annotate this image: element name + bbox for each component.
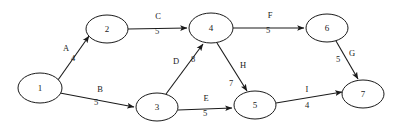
edge-weight-d: 8: [191, 54, 195, 64]
edge-label-g: G: [349, 48, 355, 58]
node-label-6: 6: [325, 23, 330, 33]
edge-label-d: D: [173, 56, 179, 66]
graph-edge-f: F5: [233, 10, 304, 35]
edge-weight-e: 5: [203, 108, 207, 118]
graph-edge-a: A4: [58, 36, 89, 80]
graph-edge-d: D8: [166, 44, 203, 94]
edge-weight-f: 5: [266, 25, 270, 35]
edge-label-b: B: [97, 84, 103, 94]
graph-node-2[interactable]: 2: [86, 15, 128, 43]
edge-line-d: [166, 44, 203, 94]
edge-weight-c: 5: [155, 26, 159, 36]
edge-weight-b: 5: [94, 97, 98, 107]
graph-edge-b: B5: [60, 84, 134, 107]
graph-edge-i: I4: [276, 84, 342, 110]
edge-weight-h: 7: [229, 78, 233, 88]
graph-node-6[interactable]: 6: [306, 14, 348, 42]
graph-node-4[interactable]: 4: [189, 13, 233, 43]
graph-diagram-canvas: A4B5C5D8E5F5G5H7I4 1234567: [0, 0, 399, 134]
node-label-4: 4: [209, 23, 214, 33]
edge-label-i: I: [306, 84, 309, 94]
edge-label-e: E: [203, 93, 208, 103]
edge-label-a: A: [63, 43, 70, 53]
nodes-layer: 1234567: [18, 13, 384, 121]
edge-weight-i: 4: [305, 100, 310, 110]
node-label-7: 7: [361, 89, 366, 99]
node-label-2: 2: [105, 24, 110, 34]
graph-svg: A4B5C5D8E5F5G5H7I4 1234567: [0, 0, 399, 134]
edge-label-c: C: [155, 11, 161, 21]
edge-weight-g: 5: [336, 54, 340, 64]
graph-edge-e: E5: [178, 93, 232, 118]
edge-label-h: H: [240, 60, 246, 70]
node-label-5: 5: [253, 100, 258, 110]
graph-node-7[interactable]: 7: [342, 80, 384, 108]
edge-weight-a: 4: [71, 53, 76, 63]
graph-edge-c: C5: [128, 11, 187, 36]
graph-node-3[interactable]: 3: [136, 93, 178, 121]
node-label-3: 3: [155, 102, 160, 112]
graph-edge-h: H7: [217, 43, 247, 91]
graph-edge-g: G5: [336, 41, 358, 79]
node-label-1: 1: [38, 83, 43, 93]
edge-label-f: F: [268, 10, 273, 20]
graph-node-1[interactable]: 1: [18, 73, 62, 103]
graph-node-5[interactable]: 5: [234, 91, 276, 119]
